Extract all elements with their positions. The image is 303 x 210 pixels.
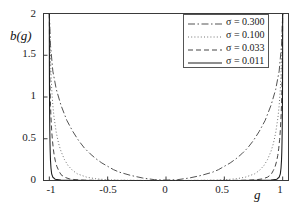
ytick-label-0: 0 <box>8 174 36 185</box>
legend-label-0: σ = 0.300 <box>226 17 265 27</box>
xtick-label-neg1: -1 <box>34 184 68 195</box>
legend-line-sample-2 <box>187 42 223 54</box>
ytick-label-1p5: 1.5 <box>8 48 36 59</box>
ytick-label-2: 2 <box>8 8 36 19</box>
legend-row-1: σ = 0.100 <box>184 28 268 41</box>
legend-label-1: σ = 0.100 <box>226 30 265 40</box>
xtick-label-0p5: 0.5 <box>205 184 239 195</box>
y-axis-title: b(g) <box>10 29 32 42</box>
xtick-label-1: 1 <box>263 184 297 195</box>
legend-row-2: σ = 0.033 <box>184 41 268 54</box>
xtick-label-0: 0 <box>148 184 182 195</box>
legend-label-3: σ = 0.011 <box>226 56 264 66</box>
x-axis-title: g <box>254 188 261 201</box>
legend-row-0: σ = 0.300 <box>184 15 268 28</box>
figure-chart-b-of-g: 2 1.5 1 0.5 0 -1 -0.5 0 0.5 1 b(g) g σ =… <box>0 0 303 210</box>
legend-row-3: σ = 0.011 <box>184 54 268 67</box>
legend-line-sample-3 <box>187 55 223 67</box>
ytick-label-1: 1 <box>8 90 36 101</box>
legend-line-sample-0 <box>187 16 223 28</box>
legend-label-2: σ = 0.033 <box>226 43 265 53</box>
ytick-label-0p5: 0.5 <box>8 132 36 143</box>
xtick-label-neg0p5: -0.5 <box>91 184 125 195</box>
legend: σ = 0.300σ = 0.100σ = 0.033σ = 0.011 <box>183 14 269 68</box>
legend-line-sample-1 <box>187 29 223 41</box>
